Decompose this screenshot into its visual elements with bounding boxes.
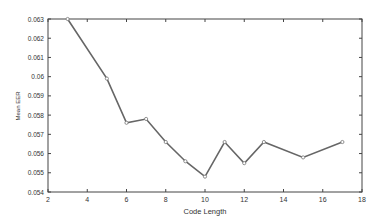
- x-tick-label: 18: [358, 196, 366, 203]
- y-tick-label: 0.06: [31, 73, 44, 80]
- y-tick-label: 0.056: [28, 150, 45, 157]
- data-point: [66, 17, 69, 20]
- y-tick-label: 0.061: [28, 54, 45, 61]
- data-point: [105, 77, 108, 80]
- y-tick-label: 0.057: [28, 131, 45, 138]
- data-point: [184, 160, 187, 163]
- data-point: [203, 175, 206, 178]
- x-tick-label: 12: [240, 196, 248, 203]
- y-tick-label: 0.054: [28, 189, 45, 196]
- data-point: [125, 121, 128, 124]
- data-point: [243, 162, 246, 165]
- y-tick-label: 0.059: [28, 92, 45, 99]
- y-tick-label: 0.062: [28, 35, 45, 42]
- x-tick-label: 4: [85, 196, 89, 203]
- data-point: [262, 140, 265, 143]
- y-axis-label: Mean EER: [15, 91, 21, 121]
- x-axis-label: Code Length: [184, 207, 227, 216]
- plot-area: [48, 19, 362, 192]
- y-tick-label: 0.058: [28, 112, 45, 119]
- y-tick-label: 0.055: [28, 169, 45, 176]
- x-tick-label: 16: [319, 196, 327, 203]
- data-point: [341, 140, 344, 143]
- x-tick-label: 2: [46, 196, 50, 203]
- data-point: [302, 156, 305, 159]
- data-point: [223, 140, 226, 143]
- line-chart: 0.0540.0550.0560.0570.0580.0590.060.0610…: [0, 0, 385, 224]
- x-tick-label: 14: [280, 196, 288, 203]
- x-tick-label: 6: [125, 196, 129, 203]
- y-tick-label: 0.063: [28, 16, 45, 23]
- data-point: [164, 140, 167, 143]
- x-tick-label: 8: [164, 196, 168, 203]
- data-point: [145, 117, 148, 120]
- x-tick-label: 10: [201, 196, 209, 203]
